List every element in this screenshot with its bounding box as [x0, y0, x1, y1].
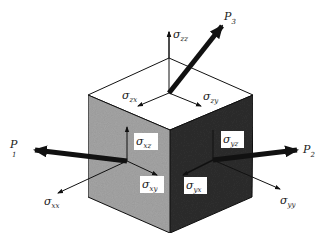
- sigma-zz-label: σzz: [173, 28, 188, 43]
- stress-cube-diagram: σzz σzx σzy σxz σxy σxx σyz σyx σyy P1 P…: [0, 0, 331, 250]
- diagram-canvas: σzz σzx σzy σxz σxy σxx σyz σyx σyy P1 P…: [0, 0, 331, 250]
- sigma-yy-label: σyy: [280, 194, 296, 209]
- p1-label: P1: [9, 138, 18, 159]
- p3-label: P3: [223, 10, 236, 26]
- sigma-xx-label: σxx: [44, 195, 59, 210]
- p2-label: P2: [302, 143, 315, 159]
